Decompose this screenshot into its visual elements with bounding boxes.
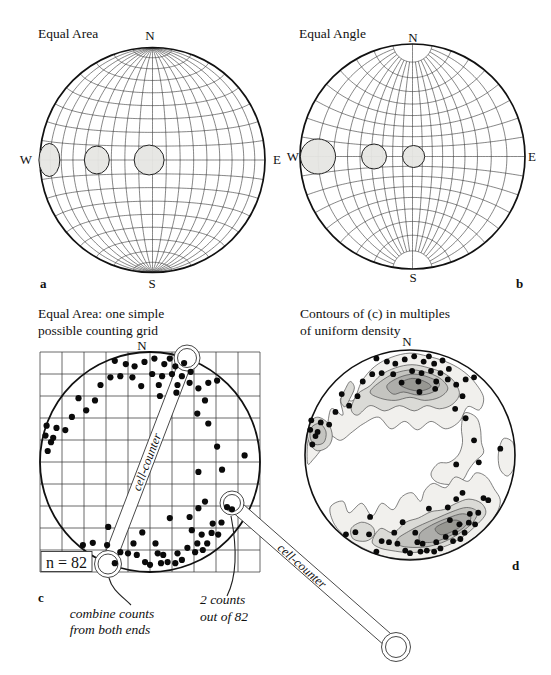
panel-b-north-label: N — [408, 30, 418, 45]
combine-counts-line1: combine counts — [70, 606, 154, 621]
panel-b-letter: b — [516, 276, 523, 291]
panel-a-south-label: S — [148, 276, 155, 291]
figure-canvas: Equal Area N S W E a Equal Angle N S W E… — [0, 0, 551, 675]
panel-c-title-line1: Equal Area: one simple — [38, 306, 164, 321]
panel-c-north-label: N — [137, 338, 147, 353]
figure: Equal Area N S W E a Equal Angle N S W E… — [0, 0, 551, 675]
panel-b-south-label: S — [409, 270, 416, 285]
panel-d-north-label: N — [402, 334, 412, 349]
stereonet-equal-angle — [300, 44, 525, 269]
n-count-label: n = 82 — [46, 554, 87, 571]
panel-a-east-label: E — [273, 152, 281, 167]
panel-d-title-line2: of uniform density — [300, 323, 401, 338]
panel-a-north-label: N — [145, 28, 155, 43]
panel-b-west-label: W — [287, 149, 300, 164]
panel-b-title: Equal Angle — [299, 26, 366, 41]
panel-a-west-label: W — [20, 152, 33, 167]
panel-a-letter: a — [40, 276, 47, 291]
panel-d-letter: d — [512, 558, 520, 573]
combine-counts-line2: from both ends — [70, 622, 151, 637]
panel-b-east-label: E — [528, 149, 536, 164]
panel-d-title-line1: Contours of (c) in multiples — [300, 306, 450, 321]
panel-a-title: Equal Area — [38, 26, 98, 41]
two-counts-line1: 2 counts — [200, 592, 245, 607]
panel-c-letter: c — [38, 590, 44, 605]
two-counts-line2: out of 82 — [200, 609, 248, 624]
contour-panel — [305, 350, 515, 560]
cell-counter-label-2: cell-counter — [275, 541, 330, 592]
stereonet-equal-area — [39, 48, 265, 273]
panel-c-title-line2: possible counting grid — [38, 323, 158, 338]
